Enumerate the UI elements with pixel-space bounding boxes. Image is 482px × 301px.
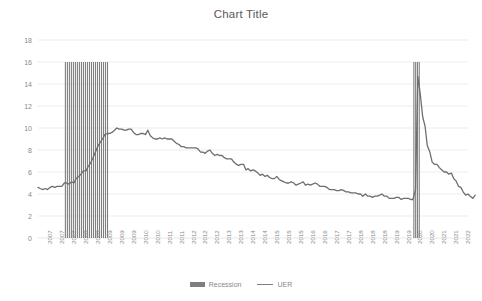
chart-container: Chart Title 024681012141618 200720072007… [0, 0, 482, 301]
x-axis-tick-label: 2019 [393, 230, 400, 244]
legend-item-recession[interactable]: Recession [190, 281, 242, 288]
x-axis-tick-label: 2009 [118, 230, 125, 244]
recession-bar [413, 62, 414, 238]
recession-bar [91, 62, 92, 238]
x-axis-tick-label: 2020 [428, 230, 435, 244]
recession-bar [69, 62, 70, 238]
x-axis-tick-label: 2012 [213, 230, 220, 244]
x-axis-tick-label: 2021 [452, 230, 459, 244]
y-axis-tick-label: 10 [8, 125, 32, 132]
recession-bar [83, 62, 84, 238]
chart-legend: Recession UER [0, 281, 482, 288]
recession-bar [103, 62, 104, 238]
x-axis-tick-label: 2015 [273, 230, 280, 244]
recession-bar [105, 62, 106, 238]
x-axis-tick-label: 2021 [440, 230, 447, 244]
x-axis-tick-label: 2014 [249, 230, 256, 244]
y-axis-tick-label: 8 [8, 147, 32, 154]
x-axis-tick-label: 2012 [201, 230, 208, 244]
x-axis-tick-label: 2015 [297, 230, 304, 244]
x-axis-tick-label: 2015 [285, 230, 292, 244]
x-axis-tick-label: 2022 [464, 230, 471, 244]
legend-label-uer: UER [277, 281, 292, 288]
y-axis-tick-label: 4 [8, 191, 32, 198]
recession-bar [101, 62, 102, 238]
recession-bar [75, 62, 76, 238]
x-axis-tick-label: 2009 [106, 230, 113, 244]
recession-bar [65, 62, 66, 238]
plot-area: 024681012141618 200720072007200820082009… [0, 0, 482, 301]
x-axis-tick-label: 2012 [190, 230, 197, 244]
recession-bar [77, 62, 78, 238]
recession-bar [79, 62, 80, 238]
x-axis-tick-label: 2020 [416, 230, 423, 244]
y-axis-tick-label: 14 [8, 81, 32, 88]
y-axis-tick-label: 16 [8, 59, 32, 66]
x-axis-tick-label: 2016 [309, 230, 316, 244]
x-axis-tick-label: 2007 [46, 230, 53, 244]
x-axis-tick-label: 2011 [178, 231, 185, 244]
x-axis-tick-label: 2013 [225, 230, 232, 244]
uer-swatch-icon [257, 284, 273, 285]
recession-bar [89, 62, 90, 238]
recession-bar [71, 62, 72, 238]
x-axis-tick-label: 2007 [70, 230, 77, 244]
x-axis-tick-label: 2008 [82, 230, 89, 244]
x-axis-tick-label: 2017 [333, 230, 340, 244]
recession-bar [67, 62, 68, 238]
recession-bar [93, 62, 94, 238]
x-axis-tick-label: 2016 [321, 230, 328, 244]
recession-bar [85, 62, 86, 238]
y-axis-tick-label: 2 [8, 213, 32, 220]
y-axis-tick-label: 18 [8, 37, 32, 44]
x-axis-tick-label: 2018 [357, 230, 364, 244]
recession-swatch-icon [190, 282, 205, 287]
x-axis-tick-label: 2013 [237, 230, 244, 244]
legend-item-uer[interactable]: UER [257, 281, 292, 288]
x-axis-tick-label: 2011 [166, 231, 173, 244]
x-axis-tick-label: 2008 [94, 230, 101, 244]
x-axis-tick-label: 2010 [142, 230, 149, 244]
y-axis-tick-label: 6 [8, 169, 32, 176]
recession-bar [73, 62, 74, 238]
x-axis-tick-label: 2018 [369, 230, 376, 244]
recession-bar [81, 62, 82, 238]
recession-bar [97, 62, 98, 238]
x-axis-tick-label: 2019 [405, 230, 412, 244]
y-axis-tick-label: 12 [8, 103, 32, 110]
y-axis-tick-label: 0 [8, 235, 32, 242]
recession-bar [99, 62, 100, 238]
legend-label-recession: Recession [209, 281, 242, 288]
recession-bar [107, 62, 108, 238]
x-axis-tick-label: 2014 [261, 230, 268, 244]
chart-svg [0, 0, 482, 301]
recession-bar [87, 62, 88, 238]
x-axis-tick-label: 2009 [130, 230, 137, 244]
x-axis-tick-label: 2017 [345, 230, 352, 244]
x-axis-tick-label: 2010 [154, 230, 161, 244]
x-axis-tick-label: 2007 [58, 230, 65, 244]
x-axis-tick-label: 2018 [381, 230, 388, 244]
